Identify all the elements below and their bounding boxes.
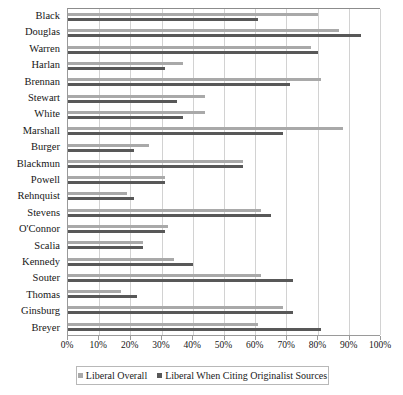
category-label: Breyer bbox=[0, 320, 64, 336]
bar-overall bbox=[68, 323, 258, 326]
bar-overall bbox=[68, 62, 183, 65]
bar-group bbox=[68, 253, 380, 269]
category-label: Stevens bbox=[0, 205, 64, 221]
chart-plot-wrapper: BlackDouglasWarrenHarlanBrennanStewartWh… bbox=[0, 0, 403, 340]
bar-overall bbox=[68, 46, 311, 49]
bar-group bbox=[68, 205, 380, 221]
bar-chart: BlackDouglasWarrenHarlanBrennanStewartWh… bbox=[0, 0, 403, 395]
bar-group bbox=[68, 123, 380, 139]
bar-originalist bbox=[68, 230, 165, 233]
category-label: Burger bbox=[0, 139, 64, 155]
bar-group bbox=[68, 90, 380, 106]
bar-overall bbox=[68, 241, 143, 244]
gridline bbox=[380, 9, 381, 335]
category-label: Powell bbox=[0, 172, 64, 188]
axis-tick-label: 70% bbox=[277, 341, 294, 351]
bar-originalist bbox=[68, 214, 271, 217]
plot-area bbox=[67, 8, 380, 336]
bar-originalist bbox=[68, 246, 143, 249]
bar-overall bbox=[68, 274, 261, 277]
bar-group bbox=[68, 188, 380, 204]
bar-originalist bbox=[68, 263, 193, 266]
bar-overall bbox=[68, 144, 149, 147]
category-label: Douglas bbox=[0, 24, 64, 40]
category-label: Black bbox=[0, 8, 64, 24]
axis-tick-label: 20% bbox=[121, 341, 138, 351]
legend-label: Liberal Overall bbox=[86, 371, 147, 381]
category-label: O'Connor bbox=[0, 221, 64, 237]
bar-group bbox=[68, 270, 380, 286]
bar-originalist bbox=[68, 279, 293, 282]
legend-label: Liberal When Citing Originalist Sources bbox=[165, 371, 327, 381]
bar-series-container bbox=[68, 9, 380, 335]
bar-overall bbox=[68, 176, 165, 179]
bar-originalist bbox=[68, 100, 177, 103]
bar-group bbox=[68, 302, 380, 318]
legend-entry[interactable]: Liberal Overall bbox=[78, 371, 147, 381]
legend-entry[interactable]: Liberal When Citing Originalist Sources bbox=[157, 371, 327, 381]
axis-tick-label: 80% bbox=[309, 341, 326, 351]
legend-swatch-icon bbox=[157, 373, 162, 378]
category-label: Marshall bbox=[0, 123, 64, 139]
bar-group bbox=[68, 25, 380, 41]
bar-overall bbox=[68, 111, 205, 114]
bar-group bbox=[68, 107, 380, 123]
category-label: Stewart bbox=[0, 90, 64, 106]
axis-tick-label: 30% bbox=[152, 341, 169, 351]
bar-group bbox=[68, 156, 380, 172]
bar-overall bbox=[68, 95, 205, 98]
bar-overall bbox=[68, 29, 339, 32]
bar-originalist bbox=[68, 83, 290, 86]
bar-originalist bbox=[68, 295, 137, 298]
category-label: Scalia bbox=[0, 238, 64, 254]
bar-group bbox=[68, 286, 380, 302]
bar-overall bbox=[68, 13, 318, 16]
bar-originalist bbox=[68, 34, 361, 37]
category-label: Souter bbox=[0, 271, 64, 287]
bar-group bbox=[68, 172, 380, 188]
bar-originalist bbox=[68, 165, 243, 168]
bar-group bbox=[68, 237, 380, 253]
category-label: Kennedy bbox=[0, 254, 64, 270]
axis-tick-label: 90% bbox=[340, 341, 357, 351]
axis-tick-label: 40% bbox=[183, 341, 200, 351]
bar-group bbox=[68, 319, 380, 335]
bar-originalist bbox=[68, 311, 293, 314]
bar-overall bbox=[68, 192, 127, 195]
bar-overall bbox=[68, 290, 121, 293]
chart-legend: Liberal OverallLiberal When Citing Origi… bbox=[76, 366, 329, 385]
bar-group bbox=[68, 74, 380, 90]
bar-overall bbox=[68, 225, 168, 228]
category-label: Warren bbox=[0, 41, 64, 57]
bar-originalist bbox=[68, 132, 283, 135]
value-axis: 0%10%20%30%40%50%60%70%80%90%100% bbox=[67, 336, 380, 356]
bar-overall bbox=[68, 127, 343, 130]
category-label: White bbox=[0, 106, 64, 122]
bar-overall bbox=[68, 78, 321, 81]
category-label: Ginsburg bbox=[0, 303, 64, 319]
category-axis: BlackDouglasWarrenHarlanBrennanStewartWh… bbox=[0, 8, 64, 336]
bar-originalist bbox=[68, 197, 134, 200]
bar-originalist bbox=[68, 116, 183, 119]
bar-group bbox=[68, 42, 380, 58]
bar-group bbox=[68, 139, 380, 155]
axis-tick-label: 50% bbox=[215, 341, 232, 351]
legend-swatch-icon bbox=[78, 373, 83, 378]
bar-group bbox=[68, 58, 380, 74]
bar-group bbox=[68, 9, 380, 25]
bar-overall bbox=[68, 160, 243, 163]
bar-originalist bbox=[68, 181, 165, 184]
bar-overall bbox=[68, 258, 174, 261]
category-label: Blackmun bbox=[0, 156, 64, 172]
bar-overall bbox=[68, 209, 261, 212]
bar-originalist bbox=[68, 51, 318, 54]
bar-group bbox=[68, 221, 380, 237]
axis-tick-label: 0% bbox=[61, 341, 74, 351]
bar-overall bbox=[68, 306, 283, 309]
axis-tick-label: 60% bbox=[246, 341, 263, 351]
axis-tick-label: 10% bbox=[90, 341, 107, 351]
bar-originalist bbox=[68, 67, 165, 70]
category-label: Brennan bbox=[0, 74, 64, 90]
category-label: Thomas bbox=[0, 287, 64, 303]
bar-originalist bbox=[68, 149, 134, 152]
